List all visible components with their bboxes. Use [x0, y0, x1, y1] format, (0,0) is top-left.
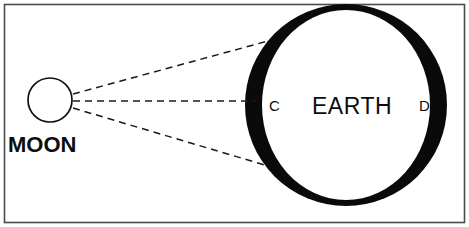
- moon-label: MOON: [8, 132, 76, 157]
- upper-ray-line: [73, 41, 268, 94]
- moon-earth-diagram: MOON C EARTH D: [0, 0, 469, 227]
- diagram-canvas: MOON C EARTH D: [0, 0, 469, 227]
- lower-ray-line: [73, 108, 268, 166]
- point-d-label: D: [419, 97, 430, 114]
- earth-label: EARTH: [312, 93, 392, 119]
- moon-body: [28, 78, 72, 122]
- point-c-label: C: [269, 97, 280, 114]
- light-ray-group: [73, 41, 268, 166]
